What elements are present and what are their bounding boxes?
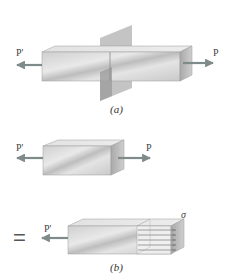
part-b-bar bbox=[68, 219, 184, 254]
force-label-left-mid: P' bbox=[16, 143, 23, 153]
axial-load-diagram bbox=[0, 0, 229, 274]
force-label-left-b: P' bbox=[44, 224, 51, 234]
force-label-right-mid: P bbox=[146, 143, 152, 153]
free-body-bar bbox=[43, 140, 124, 175]
equals-sign: = bbox=[13, 227, 26, 249]
stress-label: σ bbox=[181, 210, 186, 220]
caption-a: (a) bbox=[110, 104, 123, 115]
part-a-bar bbox=[42, 25, 192, 101]
force-label-right-a: P bbox=[213, 48, 219, 58]
force-label-left-a: P' bbox=[16, 48, 23, 58]
caption-b: (b) bbox=[110, 262, 123, 273]
